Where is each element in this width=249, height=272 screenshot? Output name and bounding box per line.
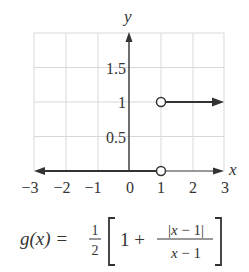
open-circle-upper: [157, 98, 166, 107]
left-bracket: [109, 218, 115, 265]
y-tick-label: 0.5: [106, 129, 126, 146]
x-tick-label: 0: [126, 179, 134, 196]
right-bracket: [215, 218, 221, 265]
formula-coef-num: 1: [92, 223, 99, 238]
y-tick-label: 1: [118, 94, 126, 111]
upper-branch-arrow-icon: [212, 98, 224, 107]
open-circle-lower: [157, 167, 166, 176]
x-axis-right-arrow-icon: [213, 168, 224, 175]
formula-frac-den: x − 1: [170, 245, 201, 261]
x-tick-label: 3: [221, 179, 229, 196]
x-axis-label: x: [228, 160, 237, 179]
x-tick-label: −1: [84, 179, 101, 196]
formula-coef-den: 2: [92, 243, 99, 258]
formula-inner-one: 1 +: [120, 229, 145, 250]
x-axis-left-arrow-icon: [34, 167, 45, 175]
x-tick-label: 1: [157, 179, 165, 196]
formula: g(x) = 1 2 1 + |x − 1| x − 1: [0, 205, 249, 272]
formula-lhs: g(x) =: [20, 228, 68, 250]
x-tick-label: −2: [53, 179, 70, 196]
x-tick-label: −3: [21, 179, 38, 196]
x-tick-label: 2: [189, 179, 197, 196]
y-tick-label: 1.5: [106, 60, 126, 77]
upper-branch: [166, 98, 224, 107]
y-axis-label: y: [122, 7, 132, 26]
graph: y x 1.5 1 0.5 −3 −2 −1 0 1 2 3: [0, 0, 249, 205]
formula-frac-num: |x − 1|: [168, 222, 204, 238]
